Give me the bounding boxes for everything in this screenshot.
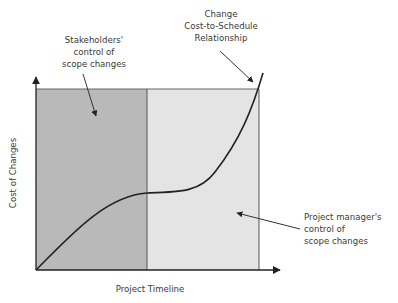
annotation-line: Cost-to-Schedule — [171, 20, 271, 32]
annotation-line: control of — [46, 46, 142, 58]
annotation-line: scope changes — [46, 58, 142, 70]
stakeholders-annotation: Stakeholders' control of scope changes — [46, 34, 142, 70]
project-manager-annotation: Project manager's control of scope chang… — [304, 211, 382, 247]
x-axis-label: Project Timeline — [100, 283, 200, 295]
cost-schedule-arrow — [220, 51, 253, 82]
y-axis-label: Cost of Changes — [8, 133, 18, 213]
annotation-line: Stakeholders' — [46, 34, 142, 46]
annotation-line: Relationship — [171, 32, 271, 44]
annotation-line: scope changes — [304, 235, 382, 247]
stakeholders-region — [36, 89, 147, 270]
annotation-line: Project manager's — [304, 211, 382, 223]
cost-schedule-annotation: Change Cost-to-Schedule Relationship — [171, 8, 271, 44]
annotation-line: Change — [171, 8, 271, 20]
annotation-line: control of — [304, 223, 382, 235]
project-manager-region — [147, 89, 259, 270]
